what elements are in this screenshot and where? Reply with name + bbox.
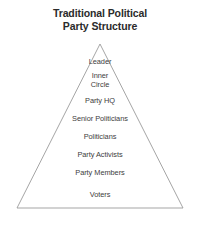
- pyramid-tier-senior-politicians-label: Senior Politicians: [72, 114, 128, 123]
- pyramid-diagram: LeaderInnerCircleParty HQSenior Politici…: [0, 0, 200, 225]
- pyramid-tier-inner-circle-label: Inner: [92, 71, 109, 80]
- pyramid-tier-leader-label: Leader: [89, 57, 112, 66]
- pyramid-tier-politicians-label: Politicians: [84, 132, 117, 141]
- pyramid-tier-leader[interactable]: Leader: [0, 58, 200, 66]
- pyramid-tier-party-activists-label: Party Activists: [77, 150, 122, 159]
- pyramid-tier-party-hq[interactable]: Party HQ: [0, 97, 200, 105]
- diagram-canvas: Traditional Political Party Structure Le…: [0, 0, 200, 225]
- pyramid-tier-inner-circle[interactable]: InnerCircle: [0, 72, 200, 88]
- pyramid-tier-party-activists[interactable]: Party Activists: [0, 151, 200, 159]
- pyramid-tier-inner-circle-label-line-2: Circle: [0, 81, 200, 89]
- pyramid-tier-voters-label: Voters: [90, 190, 111, 199]
- pyramid-tier-politicians[interactable]: Politicians: [0, 133, 200, 141]
- pyramid-tier-party-members[interactable]: Party Members: [0, 169, 200, 177]
- pyramid-tier-party-hq-label: Party HQ: [85, 96, 115, 105]
- pyramid-outline: [17, 44, 183, 208]
- pyramid-tier-senior-politicians[interactable]: Senior Politicians: [0, 115, 200, 123]
- pyramid-tier-voters[interactable]: Voters: [0, 191, 200, 199]
- pyramid-tier-party-members-label: Party Members: [75, 168, 124, 177]
